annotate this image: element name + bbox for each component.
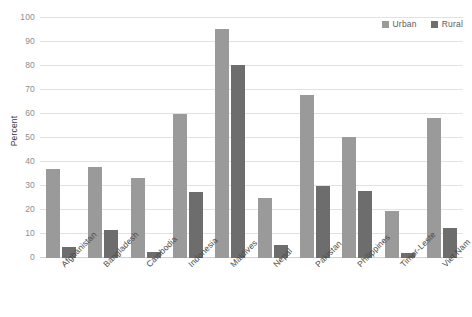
legend-swatch-icon [382, 21, 389, 28]
y-tick-label: 20 [25, 204, 35, 214]
bar-urban [215, 29, 229, 258]
y-tick-label: 70 [25, 84, 35, 94]
y-tick-label: 0 [30, 252, 35, 262]
y-tick-label: 10 [25, 228, 35, 238]
bar-urban [258, 198, 272, 258]
y-tick-label: 90 [25, 36, 35, 46]
bar-group [167, 18, 209, 258]
y-tick-label: 80 [25, 60, 35, 70]
bar-urban [131, 178, 145, 258]
y-axis-title-text: Percent [9, 116, 19, 147]
plot-area: 0102030405060708090100 [40, 18, 463, 258]
y-tick-label: 60 [25, 108, 35, 118]
bar-rural [231, 65, 245, 258]
y-axis-title: Percent [4, 0, 24, 262]
bar-group [125, 18, 167, 258]
legend-item-rural[interactable]: Rural [431, 19, 463, 29]
bar-group [421, 18, 463, 258]
bar-urban [46, 169, 60, 258]
legend-item-urban[interactable]: Urban [382, 19, 417, 29]
x-axis-labels: AfghanistanBangladeshCambodiaIndonesiaMa… [40, 259, 463, 317]
bars-layer [40, 18, 463, 258]
bar-group [294, 18, 336, 258]
bar-group [378, 18, 420, 258]
legend: UrbanRural [382, 19, 463, 29]
y-tick-label: 40 [25, 156, 35, 166]
legend-label: Urban [393, 19, 417, 29]
bar-group [209, 18, 251, 258]
y-tick-label: 30 [25, 180, 35, 190]
legend-label: Rural [442, 19, 463, 29]
bar-group [82, 18, 124, 258]
y-tick-label: 50 [25, 132, 35, 142]
bar-urban [300, 95, 314, 258]
legend-swatch-icon [431, 21, 438, 28]
y-tick-label: 100 [20, 12, 35, 22]
bar-group [252, 18, 294, 258]
bar-group [336, 18, 378, 258]
bar-group [40, 18, 82, 258]
bar-urban [342, 137, 356, 258]
